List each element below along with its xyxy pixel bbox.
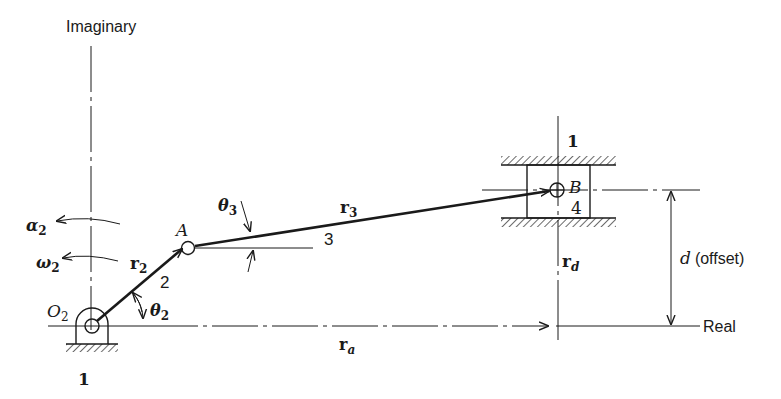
angle-theta3-label: θ3: [218, 196, 237, 218]
angle-theta3: θ3: [218, 196, 253, 272]
point-a-label: A: [174, 220, 188, 240]
angular-velocity-omega2: ω2: [36, 253, 118, 275]
offset-label: d(offset): [680, 248, 744, 268]
point-b-label: B: [568, 177, 582, 197]
ground-pivot-o2: 1 O2: [47, 301, 118, 389]
vector-ra-label: ra: [339, 335, 355, 357]
imaginary-axis-label: Imaginary: [66, 18, 136, 35]
real-axis-label: Real: [703, 318, 736, 335]
offset-dimension-d: d(offset): [671, 192, 744, 324]
omega2-label: ω2: [36, 253, 60, 275]
imaginary-axis: Imaginary: [66, 18, 136, 330]
ground-link-label-pivot: 1: [78, 369, 90, 389]
angle-theta2-label: θ2: [150, 301, 169, 323]
slider-link-number: 4: [571, 198, 582, 218]
vector-r2-label: r2: [130, 253, 147, 276]
real-axis: Real: [48, 318, 736, 335]
crank-link-2: r2 2: [97, 249, 182, 321]
coupler-link-number: 3: [324, 230, 333, 249]
crank-link-number: 2: [160, 273, 169, 292]
angular-acceleration-alpha2: α2: [26, 216, 120, 238]
vector-r3-label: r3: [340, 197, 357, 220]
vector-rd-label: rd: [562, 251, 580, 274]
point-o2-label: O2: [47, 301, 69, 324]
alpha2-label: α2: [26, 216, 47, 238]
ground-link-label-slider: 1: [567, 131, 579, 151]
coupler-link-3: r3 3: [194, 191, 549, 249]
pin-a: A: [174, 220, 195, 255]
angle-theta2: θ2: [133, 293, 169, 323]
slider-assembly: B 4 1 rd: [482, 116, 700, 340]
slider-crank-diagram: Imaginary Real ra 1 O2 r2 2 θ2 A r3: [0, 0, 781, 399]
